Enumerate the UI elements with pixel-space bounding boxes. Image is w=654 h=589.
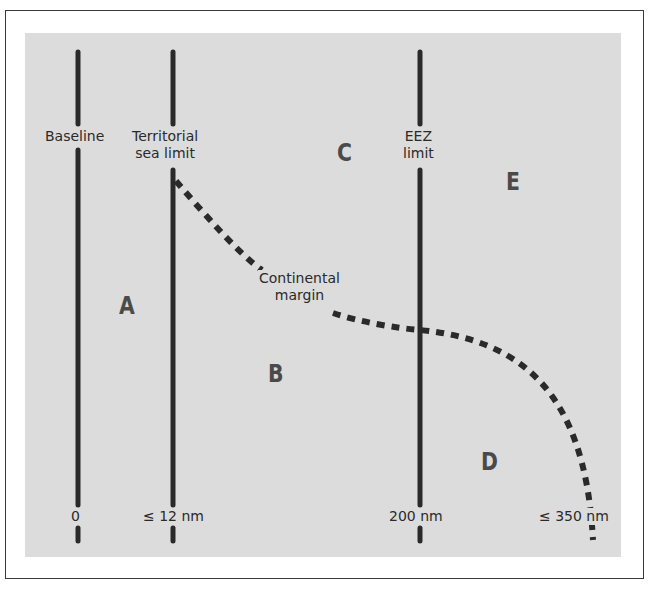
zone-a-label: A [119,292,135,320]
zone-e-label: E [506,168,520,196]
territorial-sea-distance-label: ≤ 12 nm [142,508,205,525]
zone-c-label: C [337,139,352,167]
continental-margin-curve-lower [333,313,593,540]
baseline-distance-label: 0 [70,508,81,525]
baseline-label: Baseline [44,128,105,145]
zone-d-label: D [481,448,498,476]
continental-margin-label: Continental margin [258,270,341,304]
eez-limit-label: EEZ limit [402,128,435,162]
eez-distance-label: 200 nm [388,508,444,525]
continental-margin-distance-label: ≤ 350 nm [538,508,610,525]
continental-margin-curve [176,181,262,270]
territorial-sea-limit-label: Territorial sea limit [131,128,199,162]
zone-b-label: B [268,360,284,388]
